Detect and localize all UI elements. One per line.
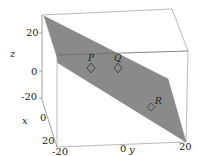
plot-3d: 20 0 z -20 0 20 x -20 0 y 20 P Q R <box>0 0 198 156</box>
y-axis-label: y <box>128 144 135 155</box>
x-axis-label: x <box>22 115 28 126</box>
y-tick-m20: -20 <box>52 146 68 156</box>
point-p-label: P <box>87 53 95 63</box>
x-tick-20: 20 <box>42 135 55 146</box>
point-q-label: Q <box>114 53 122 63</box>
y-tick-20: 20 <box>179 141 192 152</box>
y-tick-0: 0 <box>120 143 126 154</box>
z-tick-20: 20 <box>26 27 39 38</box>
z-tick-0: 0 <box>31 66 37 77</box>
z-axis-label: z <box>9 48 16 59</box>
x-tick-m20: -20 <box>21 91 37 102</box>
x-tick-0: 0 <box>40 112 46 123</box>
point-r-label: R <box>154 96 162 106</box>
plane-surface <box>44 16 186 142</box>
